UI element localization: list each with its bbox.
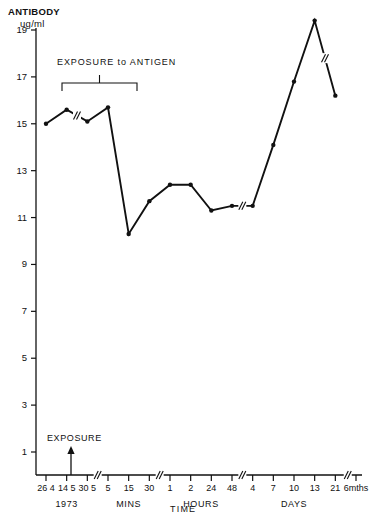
series-polyline [46,21,335,234]
axis-break-mark [156,470,164,480]
exposure-bracket [62,75,137,91]
data-point [44,122,48,126]
data-point [333,93,337,97]
chart-axes [36,28,362,475]
data-series-line [46,21,335,234]
axis-break-mark [238,470,246,480]
data-point [188,183,192,187]
data-point [230,204,234,208]
y-tick-label: 13 [7,166,27,176]
line-break-mark [321,53,329,63]
y-tick-label: 11 [7,213,27,223]
line-break-mark [238,201,246,211]
axis-break-mark [94,470,102,480]
y-tick-label: 1 [7,447,27,457]
data-point [312,18,316,22]
data-point [209,208,213,212]
data-point [147,199,151,203]
axis-break-mark [344,470,352,480]
antibody-time-line-chart [0,0,374,528]
data-point [64,108,68,112]
data-point [250,204,254,208]
line-break-mark [73,111,81,121]
y-tick-label: 9 [7,259,27,269]
x-group-label: HOURS [171,500,231,509]
y-tick-label: 7 [7,306,27,316]
x-group-label: 1973 [37,500,97,509]
data-point [168,183,172,187]
y-axis-ticks [31,30,36,452]
data-point [106,105,110,109]
y-tick-label: 5 [7,353,27,363]
y-tick-label: 3 [7,400,27,410]
data-series-points [44,18,338,236]
data-point [85,119,89,123]
data-point [271,143,275,147]
data-point [292,79,296,83]
y-tick-label: 17 [7,72,27,82]
data-point [126,232,130,236]
x-axis-ticks [46,475,356,481]
y-tick-label: 15 [7,119,27,129]
x-group-label: MINS [99,500,159,509]
y-tick-label: 19 [7,25,27,35]
x-group-label: DAYS [264,500,324,509]
exposure-arrow [67,446,74,475]
x-tick-label: 6mths [334,484,374,493]
